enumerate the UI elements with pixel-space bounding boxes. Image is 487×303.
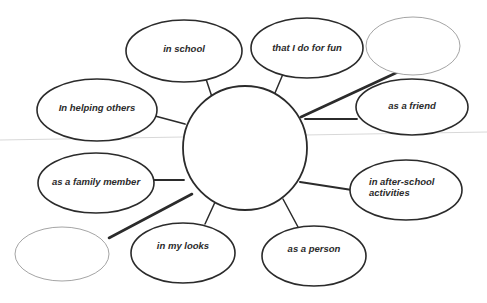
node-as-a-friend[interactable] <box>356 79 468 135</box>
node-in-my-looks[interactable] <box>131 223 235 283</box>
diagram-canvas: in schoolthat I do for funIn helping oth… <box>0 0 487 303</box>
node-as-a-family-member[interactable] <box>38 153 154 213</box>
conn-in-after-school <box>300 182 352 190</box>
node-in-helping-others[interactable] <box>37 79 157 141</box>
concept-web-svg <box>0 0 487 303</box>
conn-in-my-looks <box>205 200 216 224</box>
node-empty-bottom-left[interactable] <box>15 227 109 281</box>
node-empty-top-right[interactable] <box>366 17 460 75</box>
node-in-after-school[interactable] <box>350 160 462 220</box>
node-shape-layer <box>15 17 468 286</box>
center-node-center[interactable] <box>183 86 307 210</box>
conn-in-helping-others <box>155 116 185 124</box>
node-as-a-person[interactable] <box>262 226 366 286</box>
conn-as-a-person <box>283 199 298 227</box>
node-in-school[interactable] <box>126 20 242 82</box>
node-that-i-do-for-fun[interactable] <box>251 18 363 78</box>
